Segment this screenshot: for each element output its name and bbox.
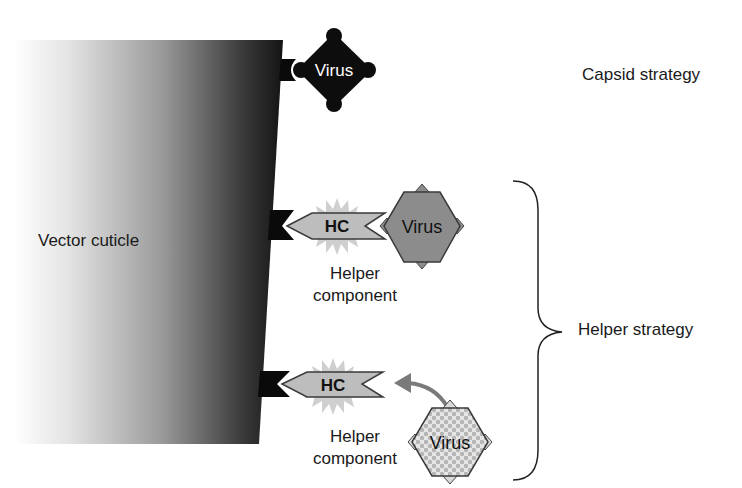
capsid-strategy-label: Capsid strategy xyxy=(582,65,700,85)
helper-component-caption-1: Helper component xyxy=(300,263,410,307)
hc-label-1: HC xyxy=(325,217,350,236)
helper-strategy-label: Helper strategy xyxy=(578,320,693,340)
caption-line: Helper xyxy=(300,263,410,285)
caption-line: component xyxy=(300,285,410,307)
helper-strategy-brace xyxy=(513,181,562,480)
curved-arrow-icon xyxy=(394,373,448,408)
hexagon-virus-label-2: Virus xyxy=(430,433,471,453)
capsid-virus-label: Virus xyxy=(315,61,353,80)
vector-cuticle-label: Vector cuticle xyxy=(38,231,139,251)
hc-label-2: HC xyxy=(321,376,346,395)
caption-line: component xyxy=(300,448,410,470)
hexagon-virus-label-1: Virus xyxy=(402,217,443,237)
helper-component-caption-2: Helper component xyxy=(300,426,410,470)
caption-line: Helper xyxy=(300,426,410,448)
